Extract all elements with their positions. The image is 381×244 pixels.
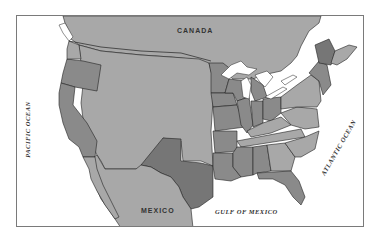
label-pacific-ocean: PACIFIC OCEAN xyxy=(24,101,31,157)
label-gulf-of-mexico: GULF OF MEXICO xyxy=(215,208,278,215)
state-arkansas xyxy=(213,131,237,153)
label-canada: CANADA xyxy=(177,27,213,34)
map-frame: CANADA MEXICO GULF OF MEXICO PACIFIC OCE… xyxy=(16,15,364,227)
state-iowa xyxy=(211,93,237,107)
us-map xyxy=(17,16,364,227)
state-indiana xyxy=(251,101,263,127)
us-west-region xyxy=(79,45,213,173)
state-florida xyxy=(257,171,305,205)
label-mexico: MEXICO xyxy=(141,207,175,214)
state-ohio xyxy=(263,97,281,121)
maritime-canada xyxy=(331,45,357,65)
lake-ontario xyxy=(281,75,297,85)
